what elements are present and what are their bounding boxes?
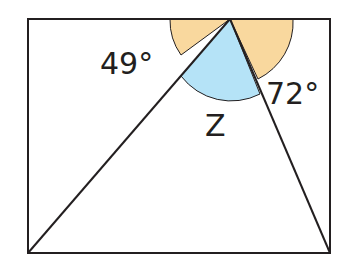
triangle-in-rectangle-diagram: 49° 72° Z: [0, 0, 343, 261]
right-angle-label: 72°: [266, 76, 319, 111]
left-angle-label: 49°: [100, 46, 153, 81]
unknown-angle-label: Z: [205, 108, 226, 143]
